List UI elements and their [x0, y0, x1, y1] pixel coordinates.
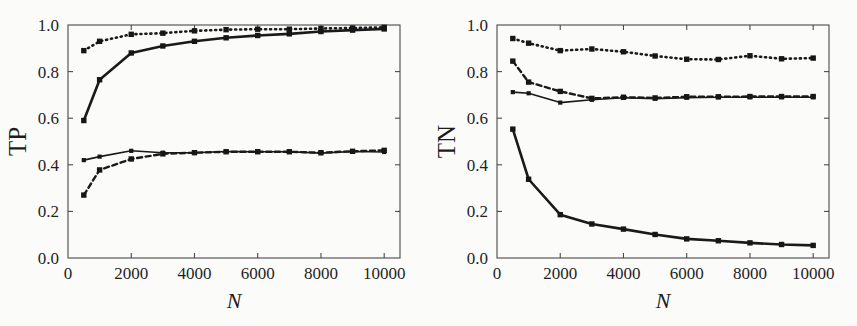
- tp-data-marker: [129, 50, 134, 55]
- tn-data-marker: [558, 48, 563, 53]
- tp-y-tick-label: 1.0: [38, 16, 59, 35]
- tn-x-tick-label: 8000: [733, 264, 767, 283]
- tp-data-marker: [160, 43, 165, 48]
- tn-data-marker: [716, 95, 720, 99]
- tp-data-marker: [223, 149, 228, 154]
- tn-y-tick-labels: 0.00.20.40.60.81.0: [467, 16, 489, 268]
- tp-data-marker: [81, 192, 86, 197]
- tn-data-marker: [810, 55, 815, 60]
- tn-data-marker: [779, 95, 783, 99]
- tn-data-series: [510, 36, 816, 248]
- tn-data-marker: [526, 40, 531, 45]
- tn-data-marker: [652, 53, 657, 58]
- tn-data-marker: [510, 126, 515, 131]
- tn-data-marker: [716, 238, 721, 243]
- figure-container: 0200040006000800010000 0.00.20.40.60.81.…: [0, 0, 857, 326]
- tp-data-series: [81, 25, 387, 198]
- tp-data-marker: [350, 149, 355, 154]
- chart-panel-tp: 0200040006000800010000 0.00.20.40.60.81.…: [0, 0, 428, 326]
- tn-data-marker: [779, 56, 784, 61]
- tn-data-marker: [558, 212, 563, 217]
- tp-data-marker: [81, 118, 86, 123]
- tn-x-tick-label: 4000: [606, 264, 640, 283]
- tn-data-marker: [526, 177, 531, 182]
- tp-data-marker: [98, 155, 102, 159]
- chart-panel-tn: 0200040006000800010000 0.00.20.40.60.81.…: [429, 0, 857, 326]
- tp-data-marker: [81, 48, 86, 53]
- tn-data-marker: [748, 95, 752, 99]
- tp-data-marker: [192, 28, 197, 33]
- tn-data-marker: [558, 100, 562, 104]
- tn-data-marker: [510, 36, 515, 41]
- tp-y-tick-label: 0.2: [38, 202, 59, 221]
- tn-data-marker: [621, 226, 626, 231]
- tp-data-marker: [318, 29, 323, 34]
- tp-data-marker: [160, 30, 165, 35]
- tn-x-axis-label: N: [655, 288, 672, 313]
- tn-data-marker: [510, 58, 515, 63]
- tn-x-tick-labels: 0200040006000800010000: [493, 264, 835, 283]
- tp-data-marker: [223, 27, 228, 32]
- tp-data-marker: [97, 167, 102, 172]
- tp-data-marker: [129, 149, 133, 153]
- tp-x-tick-label: 0: [64, 264, 73, 283]
- tn-data-marker: [558, 89, 563, 94]
- tp-y-tick-label: 0.6: [38, 109, 59, 128]
- tn-data-marker: [747, 240, 752, 245]
- tn-data-marker: [716, 57, 721, 62]
- tp-x-tick-label: 6000: [241, 264, 275, 283]
- tn-data-marker: [779, 242, 784, 247]
- tn-data-marker: [810, 243, 815, 248]
- tn-x-tick-label: 10000: [792, 264, 835, 283]
- tp-data-marker: [97, 77, 102, 82]
- tn-data-marker: [811, 95, 815, 99]
- tn-data-marker: [684, 236, 689, 241]
- tp-y-tick-label: 0.0: [38, 249, 59, 268]
- tp-data-marker: [255, 33, 260, 38]
- tp-x-axis-label: N: [226, 288, 243, 313]
- tp-plot-svg: 0200040006000800010000 0.00.20.40.60.81.…: [0, 0, 428, 326]
- tp-y-tick-label: 0.8: [38, 63, 59, 82]
- tn-plot-svg: 0200040006000800010000 0.00.20.40.60.81.…: [429, 0, 857, 326]
- tp-data-marker: [82, 158, 86, 162]
- tp-y-tick-labels: 0.00.20.40.60.81.0: [38, 16, 60, 268]
- tp-x-tick-label: 2000: [114, 264, 148, 283]
- tp-data-marker: [381, 148, 386, 153]
- tp-series-solid-thick-upper: [84, 29, 384, 121]
- tp-data-marker: [255, 26, 260, 31]
- tp-data-marker: [97, 39, 102, 44]
- tn-y-tick-label: 0.6: [467, 109, 488, 128]
- tn-data-marker: [653, 97, 657, 101]
- tp-x-tick-label: 4000: [177, 264, 211, 283]
- tn-data-marker: [652, 232, 657, 237]
- tn-y-axis-label: TN: [433, 125, 460, 158]
- tn-data-marker: [589, 46, 594, 51]
- tn-y-tick-label: 1.0: [467, 16, 488, 35]
- tp-data-marker: [192, 150, 197, 155]
- tn-y-tick-label: 0.4: [467, 156, 489, 175]
- tn-data-marker: [685, 96, 689, 100]
- tn-data-marker: [527, 91, 531, 95]
- tn-series-solid-thick-lower: [513, 129, 813, 245]
- tn-y-tick-label: 0.2: [467, 202, 488, 221]
- tp-data-marker: [160, 151, 165, 156]
- tn-data-marker: [684, 57, 689, 62]
- tn-data-marker: [511, 90, 515, 94]
- tp-plot-frame: [68, 25, 400, 258]
- tn-y-tick-label: 0.0: [467, 249, 488, 268]
- tp-data-marker: [318, 150, 323, 155]
- tp-data-marker: [381, 26, 386, 31]
- tn-data-marker: [621, 49, 626, 54]
- tp-x-tick-label: 8000: [304, 264, 338, 283]
- tp-x-tick-labels: 0200040006000800010000: [64, 264, 406, 283]
- tp-data-marker: [350, 27, 355, 32]
- tn-data-marker: [747, 53, 752, 58]
- tn-x-tick-label: 6000: [670, 264, 704, 283]
- tn-y-tick-label: 0.8: [467, 63, 488, 82]
- tp-y-axis-label: TP: [4, 127, 31, 156]
- tn-data-marker: [526, 79, 531, 84]
- tp-data-marker: [192, 39, 197, 44]
- tn-data-marker: [589, 221, 594, 226]
- tp-data-marker: [255, 149, 260, 154]
- tn-data-marker: [621, 96, 625, 100]
